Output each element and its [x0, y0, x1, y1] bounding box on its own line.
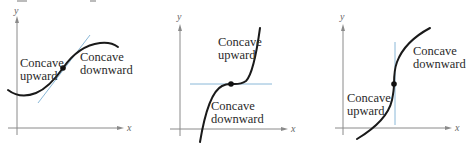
inflection-point	[391, 81, 397, 87]
y-axis-arrow-icon	[15, 16, 19, 23]
label-concave-downward: Concave	[413, 44, 457, 58]
label-concave-upward-line2: upward	[347, 104, 385, 118]
panel-2: y x Concave upward Concave downward	[170, 11, 296, 142]
label-concave-downward-line2: downward	[211, 112, 265, 126]
panel-3: y x Concave downward Concave upward	[335, 11, 467, 139]
y-axis-arrow-icon	[178, 24, 182, 31]
inflection-point	[228, 81, 234, 87]
label-concave-downward: Concave	[80, 50, 124, 64]
label-concave-upward-line2: upward	[218, 48, 256, 62]
x-axis-label: x	[454, 122, 460, 133]
panel-1: y x Concave upward Concave downward	[8, 5, 134, 135]
label-concave-upward: Concave	[20, 56, 64, 70]
x-axis-arrow-icon	[445, 126, 452, 130]
clipped-text-fragments	[17, 0, 96, 2]
x-axis-label: x	[126, 122, 132, 133]
label-concave-downward-line2: downward	[413, 57, 467, 71]
label-concave-downward: Concave	[211, 99, 255, 113]
x-axis-arrow-icon	[281, 127, 288, 131]
y-axis-arrow-icon	[341, 24, 345, 31]
label-concave-downward-line2: downward	[80, 63, 134, 77]
x-axis-arrow-icon	[117, 126, 124, 130]
y-axis-label: y	[176, 11, 182, 22]
x-axis-label: x	[290, 123, 296, 134]
y-axis-label: y	[13, 5, 19, 16]
label-concave-upward: Concave	[347, 91, 391, 105]
label-concave-upward-line2: upward	[20, 69, 58, 83]
inflection-points-figure: y x Concave upward Concave downward y x …	[0, 0, 469, 153]
label-concave-upward: Concave	[218, 35, 262, 49]
y-axis-label: y	[339, 11, 345, 22]
